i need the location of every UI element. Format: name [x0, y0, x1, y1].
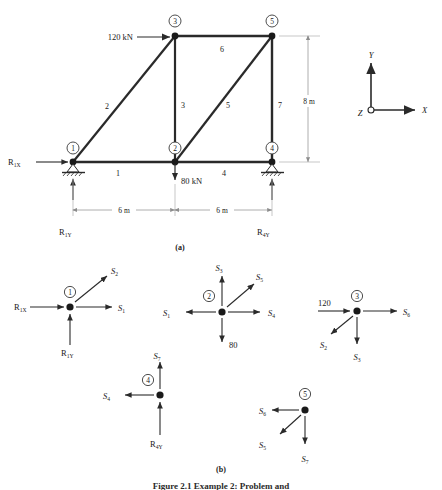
fbd-force-label-j3-120: 120: [318, 298, 331, 308]
dimension-horizontal: 6 m 6 m: [73, 178, 272, 216]
fbd-force-label-j2-S5: S5: [256, 272, 263, 283]
fbd-force-label-j1-S1: S1: [118, 303, 125, 314]
member-label-1: 1: [116, 169, 120, 178]
reaction-label-R4Y: R4Y: [257, 227, 270, 238]
truss-node-5[interactable]: [269, 33, 276, 40]
panel-b-label: (b): [216, 465, 226, 474]
fbd-node-dot-5[interactable]: [301, 406, 308, 413]
member-2: [73, 36, 175, 162]
figure-caption-text: Figure 2.1 Example 2: Problem and: [0, 481, 442, 490]
fbd-node-dot-3[interactable]: [353, 307, 360, 314]
node-badge-3: 3: [173, 17, 177, 26]
member-labels: 1 2 3 4 5 6 7: [105, 45, 282, 178]
fbd-force-label-j5-S5: S5: [259, 440, 266, 451]
fbd-force-label-j1-R1Y: R1Y: [61, 348, 74, 359]
panel-a-label: (a): [175, 243, 185, 252]
fbd-force-label-j5-S7: S7: [301, 454, 308, 465]
fbd-badge-2: 2: [207, 292, 211, 301]
member-label-5: 5: [226, 101, 230, 110]
fbd-force-label-j3-S6: S6: [403, 307, 410, 318]
reaction-arrow-R1Y: R1Y: [59, 179, 73, 238]
y-axis-label: Y: [369, 50, 375, 60]
dimension-label-right-span: 6 m: [216, 206, 228, 215]
z-axis-label: Z: [358, 108, 363, 118]
fbd-node-dot-1[interactable]: [66, 303, 73, 310]
reaction-arrow-R1X: R1X: [8, 157, 68, 168]
fbd-badge-5: 5: [303, 390, 307, 399]
fbd-badge-4: 4: [146, 376, 150, 385]
fbd-force-label-j2-S1: S1: [163, 308, 170, 319]
x-axis-label: X: [421, 105, 428, 115]
z-axis-origin-icon: [368, 107, 374, 113]
reaction-arrow-R4Y: R4Y: [257, 179, 272, 238]
reaction-label-R1Y: R1Y: [59, 227, 72, 238]
fbd-joint-1: 1 R1X S1 S2 R1Y: [14, 266, 125, 359]
roller-support-node-4: [261, 164, 284, 176]
load-label-80kn: 80 kN: [181, 176, 202, 186]
fbd-joint-5: 5 S6 S5 S7: [259, 388, 311, 465]
coordinate-axes: Y X Z: [358, 50, 428, 118]
fbd-force-label-j1-R1X: R1X: [14, 302, 27, 313]
member-label-4: 4: [222, 169, 226, 178]
truss-figure-svg: 1 2 3 4 5 6 7 1 2 3 4 5: [0, 0, 442, 490]
truss-node-3[interactable]: [172, 33, 179, 40]
fbd-force-label-j2-80: 80: [229, 340, 238, 350]
fbd-node-dot-2[interactable]: [218, 308, 225, 315]
member-label-6: 6: [220, 45, 224, 54]
fbd-joint-3: 3 120 S6 S2 S3: [318, 290, 410, 363]
fbd-node-dot-4[interactable]: [156, 391, 163, 398]
dimension-label-left-span: 6 m: [118, 206, 130, 215]
node-badge-5: 5: [270, 17, 274, 26]
fbd-force-label-j3-S3: S3: [353, 352, 360, 363]
member-label-2: 2: [105, 102, 109, 111]
figure-caption-clipped: Figure 2.1 Example 2: Problem and: [0, 481, 442, 490]
node-badge-2: 2: [173, 144, 177, 153]
load-arrow-120kn: 120 kN: [108, 32, 170, 42]
fbd-badge-1: 1: [68, 288, 72, 297]
dimension-vertical: 8 m: [279, 36, 321, 162]
fbd-force-label-j4-S7: S7: [153, 351, 160, 362]
pin-support-node-1: [62, 164, 85, 176]
fbd-force-label-j2-S3: S3: [215, 263, 222, 274]
dimension-label-height: 8 m: [303, 97, 315, 106]
load-label-120kn: 120 kN: [108, 32, 133, 42]
fbd-force-label-j2-S4: S4: [268, 308, 275, 319]
member-label-7: 7: [278, 101, 282, 110]
member-label-3: 3: [181, 101, 185, 110]
fbd-force-label-j5-S6: S6: [259, 406, 266, 417]
node-badge-1: 1: [71, 144, 75, 153]
node-badge-4: 4: [270, 144, 274, 153]
fbd-force-label-j4-S4: S4: [103, 391, 110, 402]
fbd-force-label-j4-R4Y: R4Y: [150, 439, 163, 450]
member-5: [175, 36, 272, 162]
fbd-force-label-j1-S2: S2: [111, 266, 118, 277]
reaction-label-R1X: R1X: [8, 157, 21, 168]
fbd-joint-4: 4 S7 S4 R4Y: [103, 351, 164, 450]
fbd-badge-3: 3: [355, 292, 359, 301]
load-arrow-80kn: 80 kN: [175, 164, 202, 186]
fbd-joint-2: 2 S1 S4 S3 S5 80: [163, 263, 275, 350]
fbd-force-label-j3-S2: S2: [320, 340, 327, 351]
figure-container: 1 2 3 4 5 6 7 1 2 3 4 5: [0, 0, 442, 490]
